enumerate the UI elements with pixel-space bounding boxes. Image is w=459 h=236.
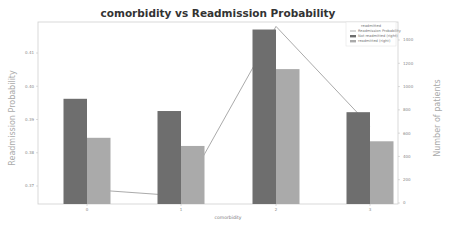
bar	[253, 30, 277, 204]
bar	[370, 141, 394, 204]
y-axis-label-right: Number of patients	[433, 79, 442, 157]
x-tick-label: 2	[275, 207, 278, 212]
legend-entry-not-readmitted: Not readmitted (right)	[358, 34, 398, 38]
left-tick-label: 0.38	[25, 150, 34, 155]
right-tick-label: 800	[403, 107, 411, 112]
left-tick-label: 0.40	[25, 84, 34, 89]
x-axis-label: comorbidity	[215, 215, 242, 220]
right-tick-label: 1400	[403, 37, 414, 42]
right-tick-label: 0	[403, 200, 406, 205]
left-tick-label: 0.39	[25, 117, 34, 122]
right-tick-label: 200	[403, 177, 411, 182]
right-tick-label: 1200	[403, 61, 414, 66]
bar	[347, 112, 371, 204]
legend-entry-line: Readmission Probability	[358, 29, 402, 33]
bar	[64, 99, 88, 204]
x-tick-label: 3	[369, 207, 372, 212]
left-axis: 0.370.380.390.400.41	[25, 50, 38, 188]
bar	[158, 111, 182, 204]
x-tick-label: 1	[180, 207, 183, 212]
right-tick-label: 400	[403, 154, 411, 159]
right-axis: 0200400600800100012001400	[398, 37, 414, 205]
bar	[87, 138, 111, 204]
left-tick-label: 0.37	[25, 183, 34, 188]
y-axis-label-left: Readmission Probability	[8, 70, 17, 166]
legend-title: readmitted	[361, 24, 381, 28]
bar	[276, 69, 300, 204]
x-tick-label: 0	[86, 207, 89, 212]
right-tick-label: 1000	[403, 84, 414, 89]
right-tick-label: 600	[403, 131, 411, 136]
chart-title: comorbidity vs Readmission Probability	[101, 7, 336, 19]
x-axis: 0123	[86, 204, 372, 212]
legend-entry-readmitted: readmitted (right)	[358, 39, 391, 43]
bar	[181, 146, 205, 204]
chart: comorbidity vs Readmission Probability 0…	[0, 0, 459, 236]
legend: readmitted Readmission Probability Not r…	[346, 22, 402, 46]
left-tick-label: 0.41	[25, 50, 34, 55]
